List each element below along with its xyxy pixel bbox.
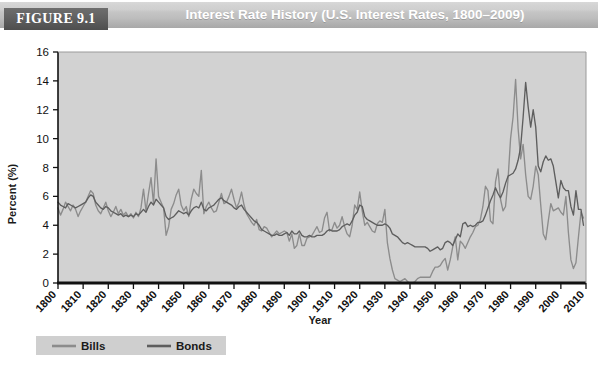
y-tick-label: 0: [43, 277, 49, 289]
x-tick-label: 2000: [536, 288, 561, 314]
x-tick-label: 1980: [486, 288, 511, 314]
x-tick-label: 1890: [259, 288, 284, 314]
y-tick-label: 14: [36, 75, 49, 87]
figure-number-badge: FIGURE 9.1: [4, 8, 108, 30]
y-tick-label: 8: [43, 162, 49, 174]
figure-container: FIGURE 9.1 Interest Rate History (U.S. I…: [0, 0, 598, 366]
x-tick-label: 1950: [410, 288, 435, 314]
x-tick-label: 1880: [234, 288, 259, 314]
chart-svg: 0246810121416 18001810182018301840185018…: [0, 34, 598, 366]
x-tick-label: 1820: [83, 288, 108, 314]
x-tick-label: 1830: [108, 288, 133, 314]
y-tick-label: 16: [36, 46, 49, 58]
legend-label-bonds: Bonds: [176, 340, 212, 352]
x-tick-label: 1990: [511, 288, 536, 314]
y-tick-label: 10: [36, 133, 49, 145]
chart-legend: BillsBonds: [36, 336, 226, 355]
x-tick-label: 1850: [159, 288, 184, 314]
x-tick-label: 1930: [360, 288, 385, 314]
x-tick-label: 1870: [209, 288, 234, 314]
x-tick-label: 1840: [134, 288, 159, 314]
x-tick-label: 1860: [184, 288, 209, 314]
plot-background-group: [58, 52, 586, 283]
chart-title: Interest Rate History (U.S. Interest Rat…: [120, 5, 590, 25]
y-tick-label: 6: [43, 190, 49, 202]
x-tick-label: 1970: [460, 288, 485, 314]
x-tick-label: 1940: [385, 288, 410, 314]
x-tick-label: 1960: [435, 288, 460, 314]
plot-area-background: [58, 52, 586, 283]
y-tick-label: 2: [43, 248, 49, 260]
figure-number-label: FIGURE 9.1: [16, 11, 95, 27]
legend-label-bills: Bills: [81, 340, 105, 352]
x-tick-label: 1920: [335, 288, 360, 314]
x-tick-label: 1810: [58, 288, 83, 314]
y-tick-label: 12: [36, 104, 49, 116]
x-tick-label: 1900: [284, 288, 309, 314]
x-tick-label: 1910: [310, 288, 335, 314]
x-tick-label: 2010: [561, 288, 586, 314]
chart-plot-region: 0246810121416 18001810182018301840185018…: [0, 34, 598, 366]
y-axis-label: Percent (%): [6, 163, 18, 224]
x-axis-ticks: 1800181018201830184018501860187018801890…: [33, 283, 586, 314]
x-axis-label: Year: [308, 314, 332, 326]
y-axis-ticks: 0246810121416: [36, 46, 58, 289]
x-tick-label: 1800: [33, 288, 58, 314]
y-tick-label: 4: [43, 219, 50, 231]
